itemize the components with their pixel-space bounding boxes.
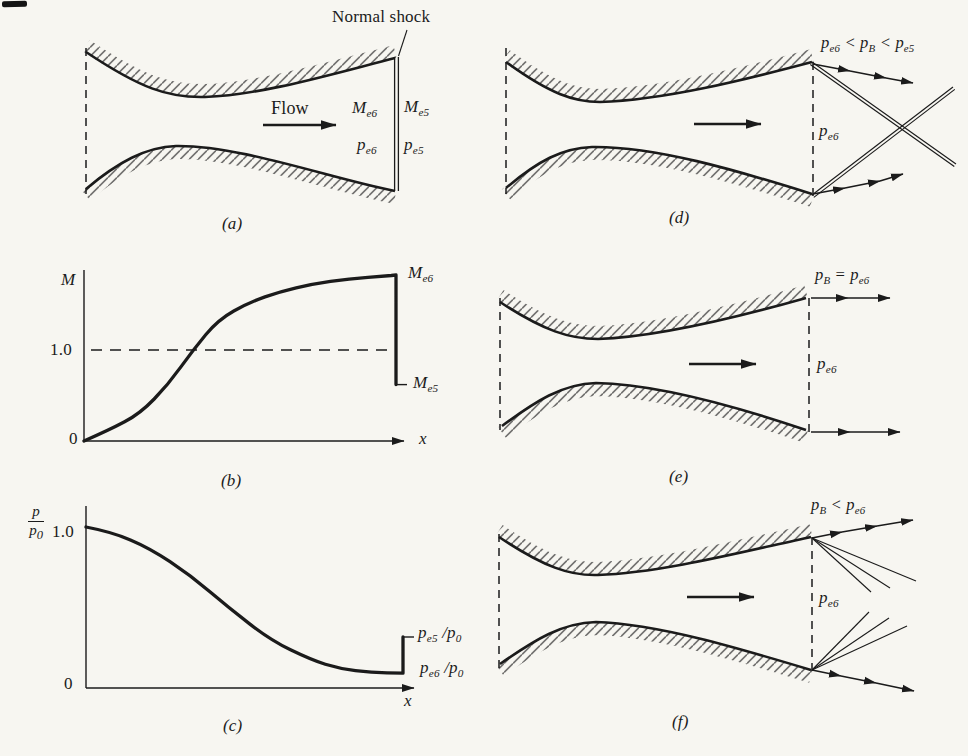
panel-e-nozzle-design-condition [500, 292, 900, 437]
mach-downstream-label: Me5 [404, 98, 429, 119]
tick-label-zero: 0 [69, 430, 78, 448]
fraction-numerator: p [32, 504, 40, 519]
hatch-lower-wall [506, 153, 812, 200]
x-axis-label: x [419, 430, 427, 448]
tick-label-one: 1.0 [50, 341, 72, 359]
y-axis-label-pressure-ratio: p p0 [28, 504, 44, 542]
panel-tag-e: (e) [669, 468, 688, 486]
normal-shock-callout: Normal shock [332, 8, 430, 26]
back-pressure-condition-f: pB < pe6 [811, 496, 865, 517]
scan-artifact-mark [2, 1, 27, 7]
mach-exit-upstream-label: Me6 [408, 264, 433, 285]
tick-label-zero: 0 [64, 675, 73, 693]
back-pressure-condition-e: pB = pe6 [815, 266, 869, 287]
panel-tag-f: (f) [672, 713, 689, 731]
panel-b-mach-plot [84, 270, 407, 441]
mach-upstream-label: Me6 [352, 99, 377, 120]
figure-nozzle-flow-regimes: Normal shock Flow Me6 Me5 pe6 pe5 (a) M … [0, 0, 968, 756]
pressure-upstream-label: pe6 [357, 136, 377, 157]
panel-tag-c: (c) [223, 717, 242, 735]
jet-boundary-arrows-bottom [812, 670, 914, 691]
oblique-shock-line [814, 89, 955, 197]
mach-exit-downstream-label: Me5 [413, 374, 438, 395]
panel-tag-d: (d) [669, 209, 689, 227]
tick-label-one: 1.0 [52, 523, 74, 541]
pressure-ratio-upstream-label: pe6 /p0 [420, 659, 464, 680]
exit-pressure-label: pe6 [819, 122, 839, 143]
y-axis-label-mach: M [61, 271, 75, 289]
fraction-denominator: p0 [29, 523, 43, 542]
panel-tag-b: (b) [221, 472, 241, 490]
exit-pressure-label: pe6 [819, 589, 839, 610]
panel-tag-a: (a) [222, 215, 242, 233]
back-pressure-condition-d: pe6 < pB < pe5 [821, 34, 915, 55]
hatch-lower-wall [86, 152, 395, 197]
oblique-shock-line [810, 65, 954, 167]
expansion-fan-top [812, 538, 916, 592]
panel-d-nozzle-oblique-shocks [506, 48, 956, 201]
pressure-downstream-label: pe5 [404, 136, 424, 157]
panel-c-pressure-plot [86, 506, 414, 688]
x-axis-label: x [404, 692, 412, 710]
jet-boundary-arrows-top [812, 520, 913, 538]
expansion-fan-bottom [812, 612, 907, 670]
pressure-ratio-downstream-label: pe5 /p0 [418, 624, 462, 645]
hatch-upper-wall [86, 46, 395, 91]
pressure-curve [86, 527, 403, 673]
line-art [0, 0, 968, 756]
flow-label: Flow [271, 99, 309, 118]
callout-leader-line [399, 30, 408, 56]
panel-f-nozzle-expansion-fans [499, 520, 916, 691]
exit-pressure-label: pe6 [817, 355, 837, 376]
mach-curve [84, 275, 396, 441]
